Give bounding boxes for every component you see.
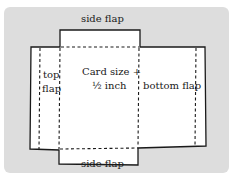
side-flap-top-label: side flap — [81, 13, 124, 25]
envelope-outline — [30, 30, 206, 165]
center-label-line2: ½ inch — [92, 80, 127, 92]
top-flap-label-line1: top — [43, 69, 59, 81]
bottom-flap-label: bottom flap — [143, 80, 201, 92]
center-label-line1: Card size + — [82, 66, 141, 78]
top-flap-label-line2: flap — [42, 83, 61, 95]
side-flap-bottom-label: side flap — [81, 158, 124, 170]
